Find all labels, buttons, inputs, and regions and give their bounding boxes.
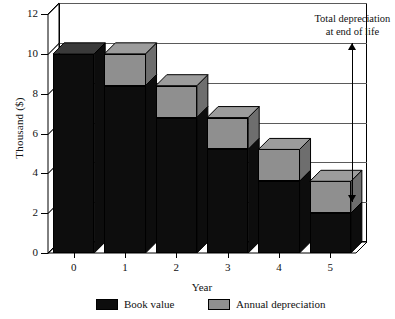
x-axis-tick-label: 5	[318, 262, 342, 273]
x-axis-tick-mark	[228, 253, 229, 258]
legend-label-annual-depreciation: Annual depreciation	[236, 298, 326, 310]
x-axis-tick-mark	[74, 253, 75, 258]
x-axis-tick-mark	[125, 253, 126, 258]
x-axis-title: Year	[172, 281, 232, 293]
annotation-line-2: at end of life	[274, 25, 395, 38]
annotation-arrow-head-up	[348, 43, 356, 50]
x-axis-tick-label: 0	[62, 262, 86, 273]
legend-label-book-value: Book value	[124, 298, 174, 310]
annotation-line-1: Total depreciation	[274, 12, 395, 25]
x-axis-tick-mark	[330, 253, 331, 258]
bar-segment-book-value	[310, 213, 351, 253]
legend-item-book-value: Book value	[96, 298, 174, 310]
bar-segment-annual-depreciation	[310, 181, 351, 213]
annotation-arrow-head-down	[348, 195, 356, 202]
legend-item-annual-depreciation: Annual depreciation	[208, 298, 326, 310]
x-axis-tick-label: 4	[267, 262, 291, 273]
x-axis-tick-mark	[279, 253, 280, 258]
annotation-total-depreciation: Total depreciation at end of life	[274, 12, 395, 38]
x-axis-tick-label: 1	[113, 262, 137, 273]
x-axis-tick-label: 2	[164, 262, 188, 273]
x-axis-tick-label: 3	[216, 262, 240, 273]
legend-swatch-book-value	[96, 299, 118, 310]
annotation-arrow-line	[352, 43, 354, 202]
legend-swatch-annual-depreciation	[208, 299, 230, 310]
x-axis-tick-mark	[176, 253, 177, 258]
